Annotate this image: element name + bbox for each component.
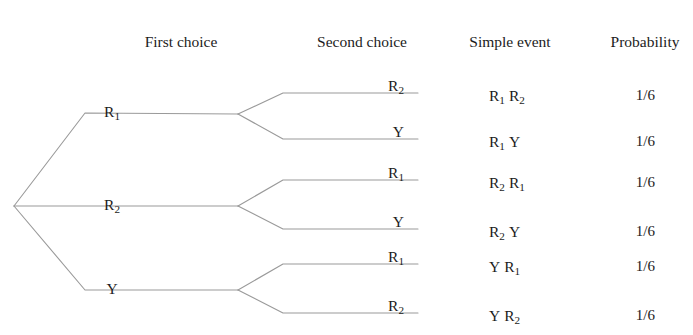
first-choice-label-r2: R2: [104, 197, 120, 213]
probability-row-6: 1/6: [636, 308, 655, 323]
probability-row-5: 1/6: [636, 259, 655, 274]
simple-event-row-5: YR1: [489, 259, 520, 275]
column-header: First choice: [145, 34, 218, 50]
simple-event-row-3: R2R1: [489, 175, 525, 191]
second-choice-label-r2-r1: R1: [388, 165, 404, 181]
probability-row-4: 1/6: [636, 224, 655, 239]
tree-branch-lines: [0, 0, 693, 335]
simple-event-row-2: R1Y: [489, 134, 520, 150]
branch-second-r2-y: [238, 206, 418, 229]
first-choice-label-r1: R1: [104, 104, 120, 120]
branch-second-r2-r1: [238, 180, 418, 206]
probability-row-3: 1/6: [636, 175, 655, 190]
first-choice-label-y: Y: [106, 281, 117, 297]
column-header: Second choice: [317, 34, 407, 50]
branch-second-r1-r2: [238, 93, 418, 114]
branch-second-r1-y: [238, 114, 418, 139]
column-header: Probability: [611, 34, 680, 50]
probability-row-2: 1/6: [636, 134, 655, 149]
column-header: Simple event: [469, 34, 550, 50]
simple-event-row-1: R1R2: [489, 88, 525, 104]
second-choice-label-r2-y: Y: [393, 214, 404, 230]
second-choice-label-y-r1: R1: [388, 249, 404, 265]
probability-row-1: 1/6: [636, 88, 655, 103]
simple-event-row-4: R2Y: [489, 224, 520, 240]
branch-second-y-r1: [238, 264, 418, 290]
branch-first-y: [14, 206, 238, 290]
branch-first-r1: [14, 113, 238, 206]
second-choice-label-r1-y: Y: [393, 124, 404, 140]
probability-tree-diagram: First choiceSecond choiceSimple eventPro…: [0, 0, 693, 335]
simple-event-row-6: YR2: [489, 308, 520, 324]
second-choice-label-r1-r2: R2: [388, 78, 404, 94]
second-choice-label-y-r2: R2: [388, 298, 404, 314]
